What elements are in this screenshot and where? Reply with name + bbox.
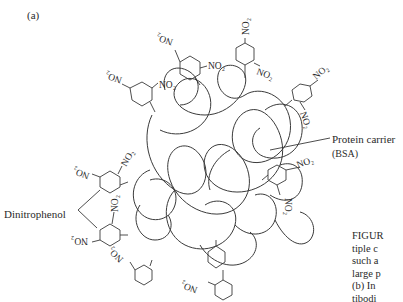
- benzene-ring-7: [100, 224, 120, 246]
- caption-line: tiple c: [352, 243, 384, 256]
- benzene-ring-3: [236, 43, 254, 65]
- svg-text:NO₂: NO₂: [71, 236, 88, 246]
- hapten-carrier-figure: (a): [0, 0, 403, 302]
- caption-line: such a: [352, 255, 384, 268]
- svg-text:NO₂: NO₂: [104, 70, 123, 85]
- bsa-label: (BSA): [332, 148, 358, 159]
- benzene-ring-4: [292, 84, 312, 102]
- caption-line: (b) In: [352, 280, 384, 293]
- dinitrophenol-leader-upper: [78, 190, 100, 210]
- svg-text:NO₂: NO₂: [179, 280, 198, 295]
- benzene-ring-5: [268, 165, 286, 185]
- svg-text:NO₂: NO₂: [119, 148, 136, 168]
- protein-carrier-label: Protein carrier: [332, 133, 395, 145]
- svg-text:NO₂: NO₂: [241, 18, 251, 35]
- figure-caption: FIGUR tiple c such a large p (b) In tibo…: [352, 230, 384, 302]
- svg-text:NO₂: NO₂: [295, 155, 314, 170]
- svg-text:NO₂: NO₂: [311, 63, 330, 82]
- caption-line: large p: [352, 268, 384, 281]
- svg-text:NO₂: NO₂: [71, 166, 90, 181]
- benzene-ring-2: [180, 56, 200, 80]
- dinitrophenol-label: Dinitrophenol: [4, 208, 66, 220]
- svg-text:NO₂: NO₂: [106, 245, 125, 264]
- svg-text:NO₂: NO₂: [208, 61, 225, 71]
- svg-text:NO₂: NO₂: [298, 110, 313, 129]
- protein-chain: [133, 65, 313, 265]
- benzene-ring-1: [130, 82, 152, 106]
- svg-text:NO₂: NO₂: [155, 32, 174, 47]
- benzene-ring-9: [215, 280, 232, 300]
- benzene-ring-6: [100, 171, 120, 193]
- svg-text:NO₂: NO₂: [110, 195, 120, 212]
- svg-text:NO₂: NO₂: [159, 80, 176, 90]
- svg-text:NO₂: NO₂: [283, 198, 293, 215]
- caption-line: tibodi: [352, 293, 384, 302]
- benzene-ring-8: [135, 265, 152, 285]
- svg-text:NO₂: NO₂: [255, 66, 274, 81]
- dinitrophenol-leader-lower: [78, 210, 97, 228]
- caption-line: FIGUR: [352, 230, 384, 243]
